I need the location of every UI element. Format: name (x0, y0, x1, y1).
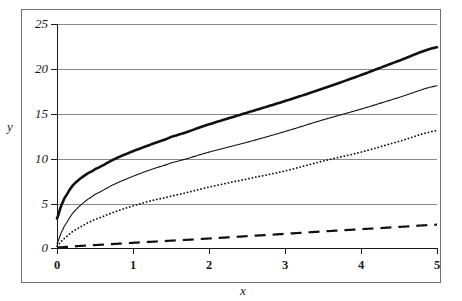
chart-figure: y x 25 20 15 10 5 0 0 1 2 3 4 5 (0, 0, 462, 301)
series-thick-solid-curve (57, 47, 437, 218)
series-dashed-curve (57, 225, 437, 248)
series-dotted-curve (57, 131, 437, 247)
series-thin-solid-curve (57, 86, 437, 244)
data-curves-layer (0, 0, 462, 301)
